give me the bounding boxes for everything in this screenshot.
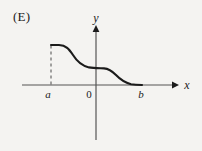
x-axis-label: x [183,78,190,92]
x-axis-arrowhead [172,82,179,89]
y-axis-label: y [92,11,99,25]
origin-label: 0 [86,88,92,100]
x-tick-label-b: b [138,88,144,100]
x-tick-label-a: a [45,88,51,100]
figure-container: (E) a 0 b x y [0,0,202,151]
y-axis-arrowhead [93,25,100,32]
graph-plot: a 0 b x y [0,0,202,151]
